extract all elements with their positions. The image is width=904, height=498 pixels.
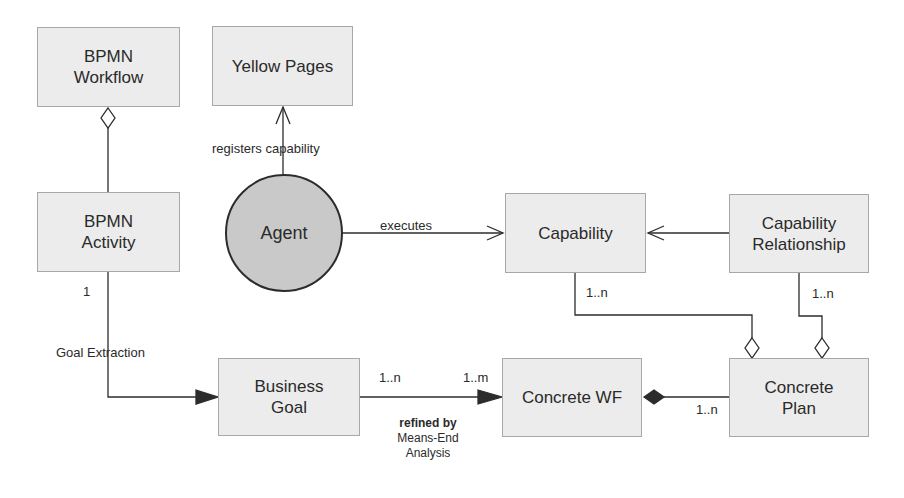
- multiplicity-label: 1..n: [379, 370, 401, 385]
- edge-label-line: refined by: [378, 416, 478, 431]
- node-label: BPMN: [84, 211, 133, 232]
- multiplicity-label: 1..m: [463, 370, 488, 385]
- node-yellow-pages[interactable]: Yellow Pages: [212, 26, 353, 106]
- multiplicity-label: 1..n: [696, 402, 718, 417]
- node-label: Concrete WF: [522, 387, 622, 408]
- edge-label-line: Analysis: [378, 446, 478, 461]
- node-concrete-wf[interactable]: Concrete WF: [502, 358, 642, 437]
- edge-goal-extraction: [108, 272, 200, 397]
- edge-label-executes: executes: [380, 218, 432, 233]
- node-label: Plan: [782, 398, 816, 419]
- node-label: Agent: [260, 223, 307, 244]
- edge-label-refined: refined by Means-End Analysis: [378, 416, 478, 461]
- multiplicity-label: 1..n: [586, 285, 608, 300]
- node-capability[interactable]: Capability: [505, 193, 646, 273]
- edge-relationship-plan: [799, 273, 822, 338]
- aggregation-diamond-icon: [815, 338, 829, 358]
- node-concrete-plan[interactable]: Concrete Plan: [729, 358, 869, 437]
- node-label: Capability: [538, 223, 613, 244]
- node-capability-relationship[interactable]: Capability Relationship: [729, 194, 869, 273]
- composition-diamond-icon: [644, 390, 664, 404]
- edge-label-line: Means-End: [378, 431, 478, 446]
- aggregation-diamond-icon: [101, 108, 115, 128]
- node-label: Business: [255, 376, 324, 397]
- node-bpmn-workflow[interactable]: BPMN Workflow: [37, 27, 180, 107]
- node-label: Concrete: [765, 377, 834, 398]
- edge-label-registers: registers capability: [212, 141, 320, 156]
- node-label: Goal: [271, 397, 307, 418]
- multiplicity-label: 1: [83, 284, 90, 299]
- edge-capability-plan: [575, 273, 752, 338]
- node-label: Activity: [82, 232, 136, 253]
- node-label: Relationship: [752, 234, 846, 255]
- node-label: BPMN: [84, 46, 133, 67]
- multiplicity-label: 1..n: [812, 286, 834, 301]
- node-label: Yellow Pages: [232, 56, 333, 77]
- aggregation-diamond-icon: [745, 338, 759, 358]
- node-business-goal[interactable]: Business Goal: [218, 358, 360, 436]
- filled-arrowhead-icon: [478, 390, 502, 404]
- node-bpmn-activity[interactable]: BPMN Activity: [37, 192, 180, 272]
- filled-arrowhead-icon: [196, 390, 218, 404]
- node-label: Capability: [762, 213, 837, 234]
- node-agent[interactable]: Agent: [225, 174, 343, 292]
- node-label: Workflow: [74, 67, 144, 88]
- edge-label-goal-extraction: Goal Extraction: [56, 345, 145, 360]
